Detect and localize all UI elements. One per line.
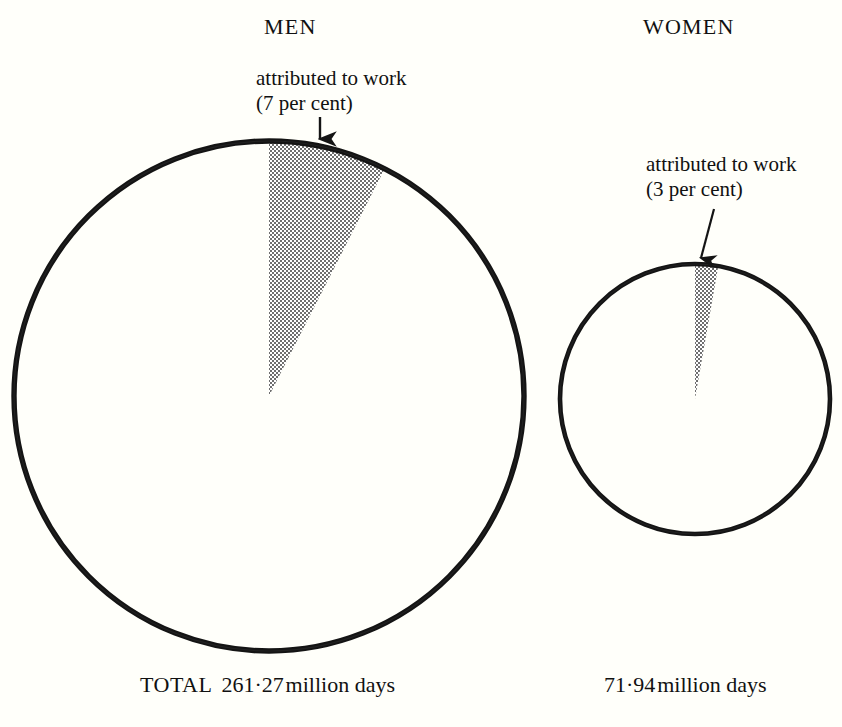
women-panel-title: WOMEN bbox=[643, 14, 735, 40]
men-wedge-attributed-to-work bbox=[269, 141, 385, 396]
men-total-caption: TOTAL261·27 million days bbox=[140, 672, 395, 698]
men-wedge-annotation: attributed to work (7 per cent) bbox=[256, 66, 406, 116]
men-pie-outline-highlight bbox=[14, 141, 524, 651]
men-annotation-line-1: attributed to work bbox=[256, 66, 406, 90]
women-wedge-annotation: attributed to work (3 per cent) bbox=[646, 152, 796, 202]
women-annotation-line-2: (3 per cent) bbox=[646, 177, 796, 202]
pie-chart-figure: MEN WOMEN attributed to work (7 per cent… bbox=[0, 0, 842, 727]
men-panel-title: MEN bbox=[264, 14, 317, 40]
men-pie-outline bbox=[14, 141, 524, 651]
men-total-unit: million days bbox=[286, 672, 395, 697]
men-total-value: 261·27 bbox=[221, 672, 283, 697]
men-annotation-line-2: (7 per cent) bbox=[256, 91, 406, 116]
men-total-label: TOTAL bbox=[140, 672, 212, 697]
women-total-value: 71·94 bbox=[604, 672, 655, 697]
women-arrow-icon bbox=[701, 209, 714, 258]
women-pie-outline bbox=[560, 264, 830, 534]
women-total-caption: 71·94 million days bbox=[604, 672, 767, 698]
women-total-unit: million days bbox=[657, 672, 766, 697]
women-wedge-attributed-to-work bbox=[695, 264, 718, 399]
women-pie bbox=[560, 264, 830, 534]
women-pie-outline-highlight bbox=[560, 264, 830, 534]
women-annotation-line-1: attributed to work bbox=[646, 152, 796, 176]
men-pie bbox=[14, 141, 524, 651]
chart-drawing-layer bbox=[0, 0, 842, 727]
